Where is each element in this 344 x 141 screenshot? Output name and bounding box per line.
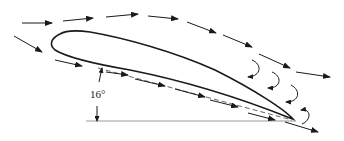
airfoil-diagram	[0, 0, 344, 141]
upper-streamlines	[14, 14, 330, 77]
airfoil-outline	[51, 31, 293, 119]
wake-vortices	[248, 60, 309, 124]
angle-of-attack-label: 16°	[90, 88, 105, 100]
angle-arrow-up	[99, 68, 102, 82]
